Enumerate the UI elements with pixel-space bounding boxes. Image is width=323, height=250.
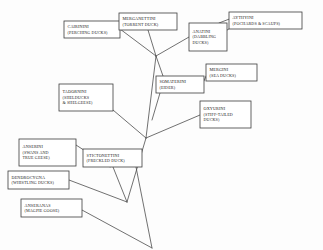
taxon-common-name: (WHISTLING DUCKS) xyxy=(12,180,55,185)
taxon-common-name: (POCHARDS & SCAUPS) xyxy=(233,21,281,26)
branch-line xyxy=(113,167,127,202)
branch-line xyxy=(148,30,156,56)
taxon-common-name: TRUE GEESE) xyxy=(23,155,51,160)
taxon-name: DENDROCYGNA xyxy=(12,175,46,180)
taxon-name: CAIRININI xyxy=(68,24,90,29)
branch-line xyxy=(156,56,163,76)
taxon-common-name: (EIDER) xyxy=(160,85,176,90)
taxon-common-name: DUCKS) xyxy=(193,40,209,45)
taxon-box-stictonettini[interactable]: STICTONETTINI(FRECKLED DUCK) xyxy=(83,149,142,167)
taxon-box-anserini[interactable]: ANSERINI(SWANS ANDTRUE GEESE) xyxy=(19,139,76,166)
taxon-common-name: (MAGPIE GOOSE) xyxy=(25,208,60,213)
branch-lines-group xyxy=(69,18,232,248)
phylogenetic-tree-diagram: CAIRININI(PERCHING DUCKS)MERGANETTINI(TO… xyxy=(0,0,323,250)
taxon-box-aythyini[interactable]: AYTHYINI(POCHARDS & SCAUPS) xyxy=(229,12,302,29)
taxon-box-anseranas[interactable]: ANSERANAS(MAGPIE GOOSE) xyxy=(21,199,82,217)
taxon-name: OXYURINI xyxy=(204,106,226,111)
taxon-name: SOMATERINI xyxy=(160,79,187,84)
taxon-box-merganettini[interactable]: MERGANETTINI(TORRENT DUCK) xyxy=(119,13,177,30)
tree-canvas: CAIRININI(PERCHING DUCKS)MERGANETTINI(TO… xyxy=(0,0,323,250)
taxon-common-name: (STIFF-TAILED xyxy=(204,112,233,117)
taxon-common-name: DUCKS) xyxy=(204,117,220,122)
taxon-common-name: (DABBLING xyxy=(193,34,217,39)
taxon-name: ANATINI xyxy=(193,29,211,34)
taxon-name: AYTHYINI xyxy=(233,15,255,20)
branch-line xyxy=(156,37,189,56)
taxon-box-dendrocygna[interactable]: DENDROCYGNA(WHISTLING DUCKS) xyxy=(8,171,69,189)
taxon-common-name: (PERCHING DUCKS) xyxy=(68,30,109,35)
taxon-common-name: (SHELDUCKS xyxy=(63,95,90,100)
taxon-box-tadornini[interactable]: TADORNINI(SHELDUCKS& SHELGEESE) xyxy=(59,84,113,111)
taxon-name: MERGANETTINI xyxy=(123,16,157,21)
taxon-name: ANSERINI xyxy=(23,144,44,149)
taxon-name: TADORNINI xyxy=(63,89,87,94)
taxon-name: MERGINI xyxy=(210,67,229,72)
branch-line xyxy=(113,110,146,138)
taxon-box-cairinini[interactable]: CAIRININI(PERCHING DUCKS) xyxy=(64,21,120,38)
taxon-common-name: (SEA DUCKS) xyxy=(210,73,237,78)
branch-line xyxy=(82,210,152,248)
taxon-common-name: (FRECKLED DUCK) xyxy=(87,158,126,163)
taxon-name: STICTONETTINI xyxy=(87,153,120,158)
branch-line xyxy=(146,115,200,138)
branch-line xyxy=(146,56,156,138)
branch-line xyxy=(152,93,160,120)
taxon-box-somaterini[interactable]: SOMATERINI(EIDER) xyxy=(156,76,204,93)
branch-line xyxy=(120,29,156,56)
taxon-common-name: & SHELGEESE) xyxy=(63,100,93,105)
taxon-common-name: (SWANS AND xyxy=(23,150,49,155)
taxon-common-name: (TORRENT DUCK) xyxy=(123,22,159,27)
taxon-box-mergini[interactable]: MERGINI(SEA DUCKS) xyxy=(206,64,257,81)
branch-line xyxy=(136,167,152,248)
taxon-name: ANSERANAS xyxy=(25,203,52,208)
taxon-boxes-group: CAIRININI(PERCHING DUCKS)MERGANETTINI(TO… xyxy=(8,12,302,217)
taxon-box-anatini[interactable]: ANATINI(DABBLINGDUCKS) xyxy=(189,23,227,51)
taxon-box-oxyurini[interactable]: OXYURINI(STIFF-TAILEDDUCKS) xyxy=(200,101,251,128)
